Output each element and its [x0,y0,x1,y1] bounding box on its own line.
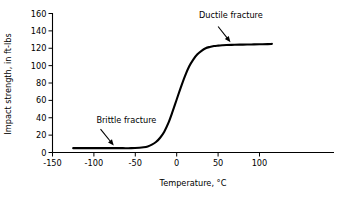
x-tick-label: 0 [174,158,179,168]
y-tick-label: 60 [36,95,46,105]
y-tick-label: 40 [36,113,46,123]
y-axis-ticks [49,14,53,153]
x-axis-group: -150-100-50050100 [43,153,334,168]
x-axis-title: Temperature, °C [159,178,227,188]
x-tick-label: -100 [85,158,104,168]
impact-strength-temperature-chart: 020406080100120140160 -150-100-50050100 … [0,0,342,197]
annotation-label-ductile: Ductile fracture [199,10,263,20]
x-tick-label: 50 [213,158,223,168]
y-tick-label: 160 [31,9,47,19]
y-axis-title: Impact strength, in ft-lbs [3,33,13,134]
y-tick-label: 140 [31,26,47,36]
x-axis-tick-labels: -150-100-50050100 [43,158,267,168]
y-tick-label: 120 [31,43,47,53]
chart-canvas: 020406080100120140160 -150-100-50050100 … [0,0,342,197]
y-tick-label: 0 [41,148,46,158]
y-tick-label: 100 [31,61,47,71]
annotations-group: Brittle fractureDuctile fracture [96,10,262,146]
x-tick-label: -150 [43,158,62,168]
y-axis-tick-labels: 020406080100120140160 [31,9,47,158]
annotation-label-brittle: Brittle fracture [96,115,156,125]
y-tick-label: 80 [36,78,46,88]
annotation-leader-brittle [101,129,112,142]
x-axis-ticks [53,153,260,157]
y-tick-label: 20 [36,130,46,140]
x-tick-label: 100 [252,158,268,168]
x-tick-label: -50 [129,158,142,168]
y-axis-group: 020406080100120140160 [31,9,53,158]
annotation-leader-ductile [218,27,228,39]
